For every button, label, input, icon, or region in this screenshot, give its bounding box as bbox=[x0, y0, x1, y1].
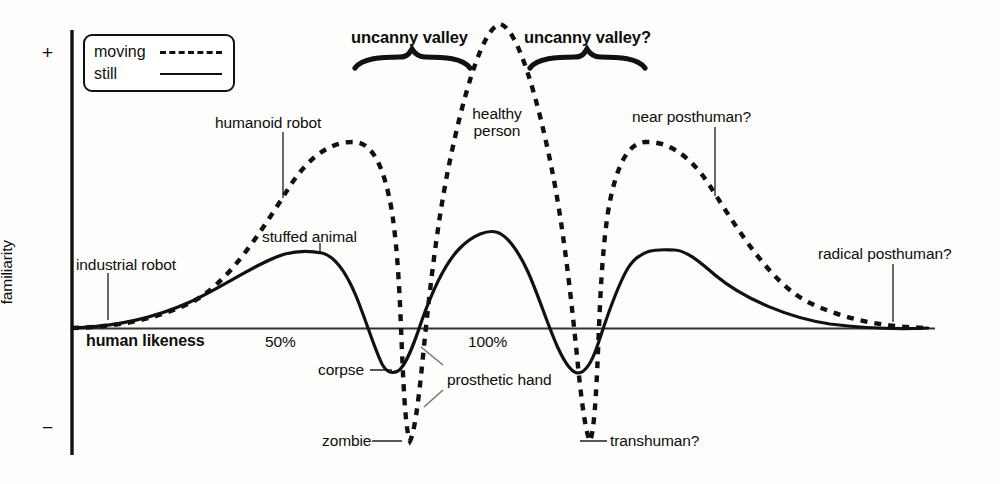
legend-swatch-dashed-icon bbox=[160, 51, 222, 54]
header-uncanny-valley-right: uncanny valley? bbox=[524, 28, 651, 46]
annotation-stuffed-animal: stuffed animal bbox=[262, 228, 357, 245]
annotation-prosthetic-hand: prosthetic hand bbox=[447, 371, 552, 388]
annotation-transhuman: transhuman? bbox=[610, 432, 699, 449]
legend-label-moving: moving bbox=[94, 43, 160, 61]
x-axis-tick-50: 50% bbox=[265, 333, 296, 350]
x-axis-title: human likeness bbox=[86, 332, 205, 350]
legend-item-moving: moving bbox=[94, 41, 222, 63]
legend: moving still bbox=[83, 34, 235, 92]
legend-swatch-solid-icon bbox=[160, 73, 222, 75]
legend-label-still: still bbox=[94, 65, 160, 83]
legend-item-still: still bbox=[94, 63, 222, 85]
leader-prosthetic-hand-lower bbox=[424, 390, 443, 407]
brace-uncanny-valley-right bbox=[530, 49, 645, 68]
y-axis-title: familiarity bbox=[0, 240, 15, 304]
annotation-zombie: zombie bbox=[322, 432, 371, 449]
header-uncanny-valley-left: uncanny valley bbox=[351, 28, 468, 46]
annotation-humanoid-robot: humanoid robot bbox=[215, 114, 321, 131]
annotation-corpse: corpse bbox=[318, 361, 364, 378]
annotation-healthy-person: healthy person bbox=[459, 105, 535, 140]
uncanny-valley-chart: moving still + − familiarity human liken… bbox=[0, 0, 1000, 484]
brace-uncanny-valley-left bbox=[355, 49, 470, 68]
series-still-line bbox=[72, 232, 928, 373]
y-axis-positive-sign: + bbox=[42, 42, 53, 63]
y-axis-negative-sign: − bbox=[42, 417, 53, 438]
annotation-near-posthuman: near posthuman? bbox=[632, 108, 751, 125]
annotation-radical-posthuman: radical posthuman? bbox=[818, 245, 951, 262]
x-axis-tick-100: 100% bbox=[468, 333, 507, 350]
annotation-industrial-robot: industrial robot bbox=[76, 256, 176, 273]
